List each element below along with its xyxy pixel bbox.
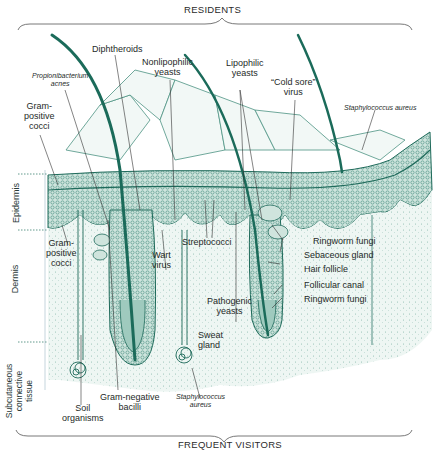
label-hair-follicle: Hair follicle <box>304 264 348 274</box>
label-lipophilic-yeasts: Lipophilic yeasts <box>226 58 264 78</box>
subcutaneous-tissue-label: Subcutaneous connective tissue <box>4 356 34 426</box>
hair-shaft-right <box>298 35 342 172</box>
label-staphylococcus-aureus-dermis: Staphylococcus aureus <box>176 393 225 409</box>
skin-microbiota-diagram: RESIDENTS FREQUENT VISITORS Epidermis De… <box>0 0 444 450</box>
residents-bracket <box>18 18 412 30</box>
label-sweat-gland: Sweat gland <box>198 330 223 350</box>
label-ringworm-fungi-lower: Ringworm fungi <box>304 294 367 304</box>
label-ringworm-fungi-upper: Ringworm fungi <box>313 236 376 246</box>
label-pathogenic-yeasts: Pathogenic yeasts <box>207 296 252 316</box>
label-gram-positive-cocci-dermis: Gram- positive cocci <box>46 238 77 268</box>
label-gram-positive-cocci-surface: Gram- positive cocci <box>24 101 55 131</box>
label-sebaceous-gland: Sebaceous gland <box>304 250 374 260</box>
layer-markers <box>18 174 48 342</box>
epidermis-layer-label: Epidermis <box>11 173 21 233</box>
label-gram-negative-bacilli: Gram-negative bacilli <box>100 392 160 412</box>
label-diphtheroids: Diphtheroids <box>92 44 143 54</box>
frequent-visitors-label: FREQUENT VISITORS <box>178 439 282 450</box>
label-streptococci: Streptococci <box>182 237 232 247</box>
label-follicular-canal: Follicular canal <box>304 280 364 290</box>
label-staphylococcus-aureus-surface: Staphylococcus aureus <box>344 104 416 112</box>
skin-cross-section-illustration <box>0 0 444 450</box>
label-wart-virus: Wart virus <box>152 250 171 270</box>
label-propionibacterium-acnes: Propionibacterium acnes <box>32 72 88 88</box>
label-soil-organisms: Soil organisms <box>62 403 104 423</box>
label-cold-sore-virus: “Cold sore” virus <box>271 77 316 97</box>
label-nonlipophilic-yeasts: Nonlipophilic yeasts <box>142 57 193 77</box>
residents-label: RESIDENTS <box>184 4 241 15</box>
dermis-layer-label: Dermis <box>10 254 20 304</box>
